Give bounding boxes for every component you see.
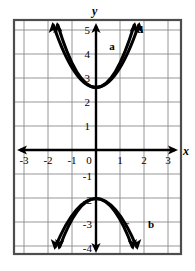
x-tick-label-0: 0 <box>86 154 92 166</box>
curve-label-b: b <box>148 218 154 230</box>
y-tick-label-5: 5 <box>85 24 91 36</box>
x-tick-label-2: 2 <box>141 154 147 166</box>
canvas-background <box>0 0 195 271</box>
y-tick-label--3: -3 <box>83 218 93 230</box>
x-tick-label--1: -1 <box>67 154 76 166</box>
curve-label-d: d <box>137 23 143 35</box>
y-tick-label-1: 1 <box>85 120 91 132</box>
x-tick-label-1: 1 <box>117 154 123 166</box>
x-tick-label--2: -2 <box>43 154 52 166</box>
y-tick-label-4: 4 <box>85 48 91 60</box>
y-axis-label: y <box>90 4 98 18</box>
x-axis-label: x <box>182 144 189 158</box>
y-tick-label--1: -1 <box>83 170 92 182</box>
curve-label-a: a <box>109 40 115 52</box>
y-tick-label-2: 2 <box>85 96 91 108</box>
coordinate-plane-svg: y x -3 -2 -1 0 1 2 3 5 4 3 2 1 -1 -2 -3 … <box>0 0 195 271</box>
x-tick-label--3: -3 <box>19 154 29 166</box>
x-tick-label-3: 3 <box>165 154 171 166</box>
graph-figure: y x -3 -2 -1 0 1 2 3 5 4 3 2 1 -1 -2 -3 … <box>0 0 195 271</box>
curve-label-c: c <box>125 218 130 230</box>
y-tick-label--4: -4 <box>83 242 93 254</box>
